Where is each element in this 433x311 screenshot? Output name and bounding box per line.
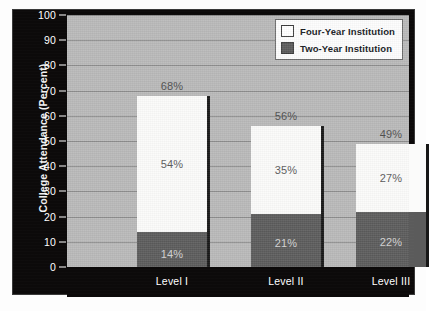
bar-level-ii[interactable]: 35%21% (251, 126, 321, 267)
chart-panel: College Attendance (Percent) 01020304050… (12, 9, 415, 295)
bar-level-i[interactable]: 54%14% (137, 96, 207, 267)
bar-segment-four-year[interactable]: 27% (356, 144, 426, 212)
x-axis-category-label: Level III (341, 275, 433, 287)
legend-swatch-two-year (281, 42, 294, 54)
bar-shadow (426, 144, 429, 267)
bar-value-label-two-year: 22% (356, 236, 426, 248)
bar-shadow (207, 96, 210, 267)
y-axis-tick-label: 30 (12, 185, 56, 197)
y-axis-tick-label: 10 (12, 236, 56, 248)
y-axis-tick-mark (59, 141, 66, 142)
bar-level-iii[interactable]: 27%22% (356, 144, 426, 267)
bar-value-label-four-year: 27% (356, 172, 426, 184)
bar-value-label-four-year: 54% (137, 158, 207, 170)
bar-segment-four-year[interactable]: 35% (251, 126, 321, 214)
bar-value-label-two-year: 21% (251, 237, 321, 249)
bar-segment-two-year[interactable]: 22% (356, 212, 426, 267)
y-axis-tick-label: 50 (12, 135, 56, 147)
y-axis-tick-mark (59, 40, 66, 41)
y-axis-tick-mark (59, 65, 66, 66)
legend-swatch-four-year (281, 25, 294, 37)
y-axis-tick-mark (59, 90, 66, 91)
bar-total-label: 68% (137, 80, 207, 92)
legend-label-two-year: Two-Year Institution (300, 43, 392, 54)
gridline (67, 15, 409, 16)
y-axis-tick-mark (59, 115, 66, 116)
y-axis-tick-mark (59, 267, 66, 268)
bar-value-label-four-year: 35% (251, 164, 321, 176)
plot-area: 54%14%68%35%21%56%27%22%49% Four-Year In… (67, 15, 409, 267)
legend-item-two-year[interactable]: Two-Year Institution (281, 41, 395, 55)
legend-label-four-year: Four-Year Institution (300, 26, 395, 37)
y-axis-tick-label: 90 (12, 34, 56, 46)
bar-total-label: 49% (356, 128, 426, 140)
y-axis-tick-label: 60 (12, 110, 56, 122)
legend-item-four-year[interactable]: Four-Year Institution (281, 24, 395, 38)
y-axis-tick-label: 80 (12, 59, 56, 71)
gridline (67, 65, 409, 66)
y-axis-tick-mark (59, 216, 66, 217)
y-axis-tick-label: 70 (12, 85, 56, 97)
bar-shadow (321, 126, 324, 267)
y-axis-tick-label: 100 (12, 9, 56, 21)
bar-total-label: 56% (251, 110, 321, 122)
x-axis-category-label: Level II (236, 275, 336, 287)
legend: Four-Year Institution Two-Year Instituti… (275, 19, 403, 60)
y-axis-tick-mark (59, 191, 66, 192)
y-axis-tick-label: 20 (12, 211, 56, 223)
bar-segment-two-year[interactable]: 21% (251, 214, 321, 267)
bar-segment-two-year[interactable]: 14% (137, 232, 207, 267)
y-axis-tick-mark (59, 166, 66, 167)
x-axis-band: Level ILevel IILevel III (67, 267, 409, 297)
x-axis-category-label: Level I (122, 275, 222, 287)
y-axis-tick-label: 0 (12, 261, 56, 273)
gridline (67, 116, 409, 117)
bar-value-label-two-year: 14% (137, 248, 207, 260)
y-axis-tick-label: 40 (12, 160, 56, 172)
bar-segment-four-year[interactable]: 54% (137, 96, 207, 232)
y-axis-tick-mark (59, 15, 66, 16)
gridline (67, 91, 409, 92)
y-axis-tick-mark (59, 241, 66, 242)
gridline (67, 141, 409, 142)
